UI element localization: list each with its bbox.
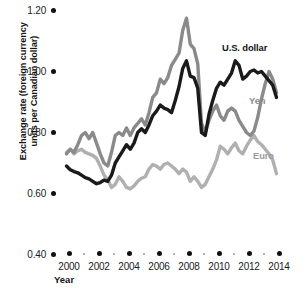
series-line-yen	[67, 18, 277, 166]
series-label-yen: Yen	[249, 95, 265, 106]
series-label-us-dollar: U.S. dollar	[222, 42, 267, 53]
series-label-euro: Euro	[253, 150, 274, 161]
exchange-rate-line-chart: Exchange rate (foreign currency units pe…	[0, 0, 307, 298]
